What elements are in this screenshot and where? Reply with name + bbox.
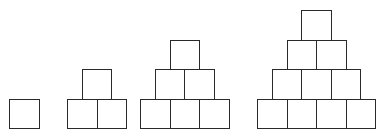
square-block xyxy=(170,99,201,130)
square-block xyxy=(331,69,362,100)
square-block xyxy=(140,99,171,130)
square-block xyxy=(287,99,318,130)
square-block xyxy=(67,99,98,130)
square-block xyxy=(9,99,40,130)
square-block xyxy=(184,69,215,100)
square-block xyxy=(155,69,186,100)
square-block xyxy=(170,40,201,71)
square-block xyxy=(82,69,113,100)
square-block xyxy=(287,40,318,71)
square-block xyxy=(346,99,377,130)
square-block xyxy=(316,40,347,71)
square-block xyxy=(97,99,128,130)
square-block xyxy=(301,10,332,41)
square-block xyxy=(316,99,347,130)
square-block xyxy=(257,99,288,130)
square-block xyxy=(199,99,230,130)
square-block xyxy=(272,69,303,100)
square-block xyxy=(301,69,332,100)
